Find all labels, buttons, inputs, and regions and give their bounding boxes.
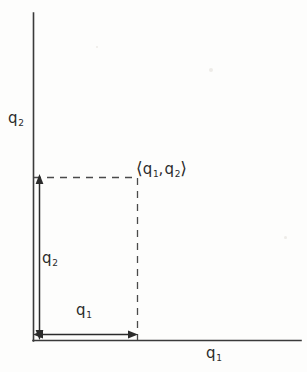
point-coordinate-label: ⟨q1,q2⟩ [136, 160, 187, 179]
point-first-base: q [143, 160, 153, 178]
y-axis-label-base: q [8, 109, 18, 127]
y-axis-label-subscript: 2 [18, 118, 24, 128]
x-axis-label-subscript: 1 [216, 353, 222, 363]
scan-speckle [96, 46, 98, 48]
point-first-subscript: 1 [152, 169, 158, 179]
vertical-measure-label-subscript: 2 [52, 258, 58, 268]
scan-speckle [209, 68, 213, 72]
horizontal-measure-label: q1 [76, 302, 92, 320]
x-axis-label: q1 [206, 345, 222, 363]
scan-speckle [284, 236, 287, 239]
vertical-measure-label: q2 [42, 250, 58, 268]
diagram-canvas [0, 0, 307, 372]
vertical-measure-label-base: q [42, 249, 52, 267]
point-second-base: q [164, 160, 174, 178]
vertical-measure-arrowhead-up [36, 174, 44, 184]
point-open-paren: ⟨ [136, 158, 143, 178]
horizontal-measure-label-subscript: 1 [86, 310, 92, 320]
horizontal-measure-arrowhead-right [128, 331, 138, 339]
coordinate-diagram: q2 q1 ⟨q1,q2⟩ q2 q1 [0, 0, 307, 372]
point-close-paren: ⟩ [180, 158, 187, 178]
x-axis-label-base: q [206, 344, 216, 362]
y-axis-label: q2 [8, 110, 24, 128]
horizontal-measure-label-base: q [76, 301, 86, 319]
